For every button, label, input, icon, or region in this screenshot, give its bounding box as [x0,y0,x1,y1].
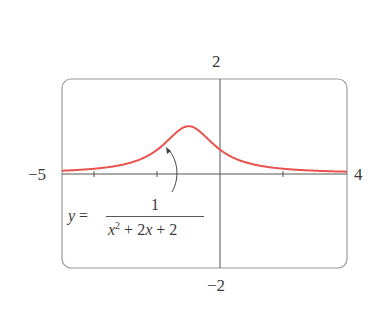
eq-den-tail: + 2 [152,221,177,238]
plot-canvas [0,0,381,310]
eq-equals: = [79,207,88,224]
eq-den-rest: + 2 [120,221,145,238]
x-max-label: 4 [354,166,363,183]
y-min-label: −2 [207,277,225,294]
eq-numerator: 1 [151,196,159,214]
annotation-arrow [168,149,177,192]
eq-denominator: x2 + 2x + 2 [108,220,177,239]
arrowhead-icon [166,147,171,154]
fraction-bar [106,216,204,217]
x-min-label: −5 [28,166,46,183]
eq-y: y [68,207,75,224]
y-max-label: 2 [212,53,221,70]
function-curve [62,126,347,171]
